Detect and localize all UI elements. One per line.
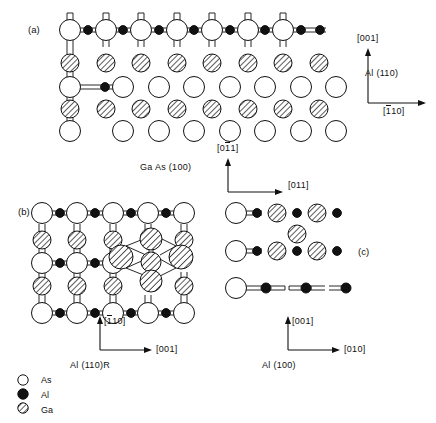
substrate-label: Ga As (100) — [140, 162, 191, 172]
axis-rest: 10] — [112, 316, 125, 326]
legend-item-ga: Ga — [14, 402, 53, 417]
legend-label-ga: Ga — [41, 405, 53, 415]
panel-a-vertical-axis-label: [001] — [357, 33, 379, 43]
substrate-vertical-axis-label: [011] — [217, 143, 239, 153]
panel-c-al-row-2 — [253, 247, 342, 256]
panel-b-vertical-axis-label: [110] — [104, 316, 126, 326]
panel-a-surface-label: Al (110) — [365, 68, 398, 78]
panel-b-ga-cluster-lower — [140, 270, 162, 292]
substrate-horizontal-axis-label: [011] — [288, 180, 309, 190]
panel-c-tag: (c) — [358, 246, 369, 257]
panel-a-tag: (a) — [28, 24, 40, 35]
panel-b-tag: (b) — [18, 206, 30, 217]
panel-a-lattice — [60, 13, 347, 142]
panel-b-surface-label: Al (110)R — [70, 360, 110, 370]
panel-a-as-row-5 — [60, 121, 347, 142]
panel-a-al-row-3 — [101, 83, 110, 92]
panel-c-vertical-axis-label: [001] — [292, 316, 314, 326]
panel-c-horizontal-axis-label: [010] — [344, 344, 366, 354]
panel-c-ga-interstitial — [288, 225, 306, 243]
panel-c-as-row-3 — [226, 278, 247, 299]
panel-b-ga-row-2 — [33, 231, 193, 249]
legend-item-as: As — [14, 372, 53, 387]
axis-rest: 1] — [230, 143, 238, 153]
panel-c-al-row-1 — [253, 209, 342, 218]
panel-c-as-row-2 — [226, 241, 247, 262]
axis-overbar-digit: 1 — [225, 143, 230, 153]
panel-a-as-row-1 — [60, 20, 294, 41]
axis-bracket-open: [0 — [217, 143, 225, 153]
panel-b-horizontal-axis-label: [001] — [156, 344, 178, 354]
legend-item-al: Al — [14, 387, 53, 402]
axis-overbar-digit: 1 — [107, 316, 112, 326]
legend-label-as: As — [41, 375, 52, 385]
axis-rest: 10] — [391, 106, 404, 116]
legend-label-al: Al — [41, 390, 49, 400]
substrate-axes — [225, 158, 283, 195]
panel-b-lattice — [32, 203, 195, 324]
panel-a-ga-row-2 — [61, 54, 328, 72]
panel-c-row-3-bonds — [245, 286, 343, 290]
panel-c-lattice — [226, 203, 352, 299]
axis-overbar-digit: 1 — [386, 106, 391, 116]
panel-c-al-row-3 — [261, 283, 351, 293]
panel-c-surface-label: Al (100) — [262, 360, 296, 370]
atomic-structure-diagram — [0, 0, 436, 423]
panel-b-ga-cluster-upper — [140, 228, 162, 250]
figure-canvas: (a) (b) (c) [001] [110] Al (110) Ga As (… — [0, 0, 436, 423]
panel-a-horizontal-axis-label: [110] — [383, 106, 405, 116]
panel-b-ga-row-4 — [33, 277, 193, 295]
panel-a-ga-row-4 — [61, 100, 328, 118]
legend: As Al Ga — [14, 372, 53, 417]
panel-c-as-row-1 — [226, 203, 247, 224]
